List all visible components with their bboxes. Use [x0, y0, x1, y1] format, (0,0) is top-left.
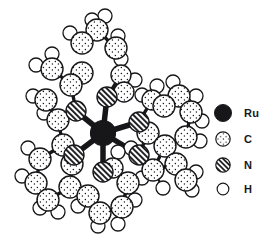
figure-root: Ru C N H: [0, 0, 278, 246]
atom-n: [66, 101, 86, 121]
legend-label-h: H: [244, 184, 252, 195]
atom-c: [60, 74, 82, 96]
legend-label-n: N: [244, 160, 252, 171]
atom-c: [37, 189, 59, 211]
atom-c: [175, 169, 197, 191]
atom-c: [71, 32, 93, 54]
legend-item-n: N: [214, 156, 252, 174]
atom-c: [153, 95, 175, 117]
atom-c: [41, 58, 63, 80]
atom-c: [175, 126, 197, 148]
atom-n: [129, 145, 149, 165]
atom-n: [93, 162, 113, 182]
atom-h: [156, 181, 170, 195]
atom-n: [64, 145, 84, 165]
c-swatch-icon: [214, 130, 232, 148]
h-swatch-icon: [214, 180, 232, 198]
atom-c: [35, 89, 57, 111]
atom-n: [97, 87, 117, 107]
atom-n: [129, 112, 149, 132]
atom-layer: [15, 9, 209, 233]
atom-h: [111, 217, 125, 231]
legend-label-c: C: [244, 134, 252, 145]
legend: Ru C N H: [214, 104, 278, 204]
atom-c: [180, 101, 202, 123]
legend-item-ru: Ru: [214, 104, 259, 122]
atom-c: [29, 148, 51, 170]
atom-h: [111, 145, 125, 159]
legend-item-h: H: [214, 180, 252, 198]
atom-ru: [91, 121, 116, 146]
molecule-diagram: [0, 0, 210, 246]
atom-c: [89, 202, 111, 224]
atom-c: [105, 37, 127, 59]
atom-c: [117, 172, 139, 194]
legend-item-c: C: [214, 130, 252, 148]
n-swatch-icon: [214, 156, 232, 174]
atom-c: [111, 196, 133, 218]
ru-swatch-icon: [214, 104, 232, 122]
legend-label-ru: Ru: [244, 108, 259, 119]
